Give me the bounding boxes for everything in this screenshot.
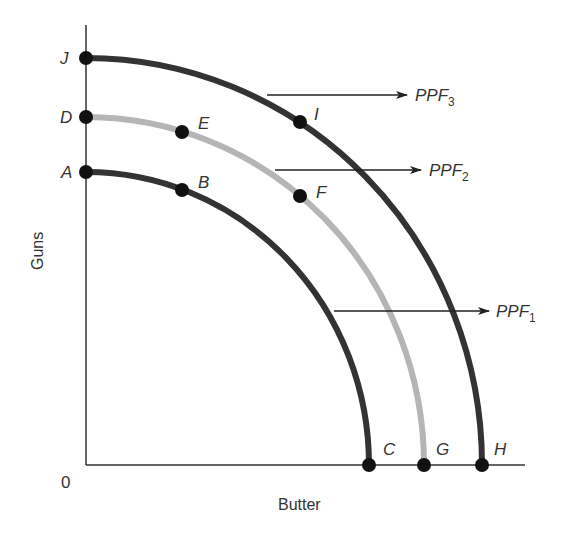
label-b: B	[198, 173, 209, 192]
point-a	[79, 165, 93, 179]
point-f	[293, 189, 307, 203]
label-e: E	[198, 114, 210, 133]
ppf2-label: PPF2	[429, 161, 469, 184]
ppf1-label: PPF1	[496, 302, 536, 325]
label-c: C	[383, 440, 396, 459]
label-d: D	[60, 108, 72, 127]
point-b	[175, 183, 189, 197]
ppf1-curve	[86, 172, 369, 465]
label-g: G	[436, 440, 449, 459]
y-axis-title: Guns	[29, 232, 46, 270]
point-c	[362, 458, 376, 472]
ppf3-curve	[86, 58, 482, 465]
point-h	[475, 458, 489, 472]
point-j	[79, 51, 93, 65]
ppf-chart: PPF3 PPF2 PPF1 J D A B E F I C G H 0 But…	[0, 0, 569, 539]
label-a: A	[60, 163, 72, 182]
point-g	[417, 458, 431, 472]
point-e	[175, 125, 189, 139]
x-axis-title: Butter	[278, 496, 321, 513]
ppf3-label: PPF3	[415, 86, 455, 109]
label-i: I	[314, 105, 319, 124]
point-d	[79, 110, 93, 124]
label-f: F	[316, 183, 328, 202]
label-h: H	[494, 440, 507, 459]
label-j: J	[59, 49, 69, 68]
origin-label: 0	[61, 473, 70, 492]
point-i	[293, 115, 307, 129]
ppf2-curve	[86, 117, 424, 465]
